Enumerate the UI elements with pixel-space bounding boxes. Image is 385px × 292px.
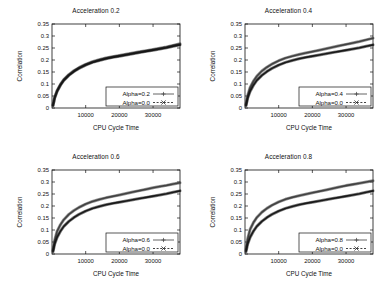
y-axis-title: Correlation <box>209 50 216 81</box>
y-tick-label: 0.35 <box>230 21 242 27</box>
legend-entry-label: Alpha=0.4 <box>315 90 343 97</box>
chart-panel-acceleration-06: Acceleration 0.6 00.050.10.150.20.250.30… <box>0 146 192 292</box>
y-tick-label: 0 <box>238 105 242 111</box>
x-axis-title: CPU Cycle Time <box>285 270 332 278</box>
y-tick-label: 0.2 <box>41 57 49 63</box>
y-tick-label: 0.25 <box>38 191 50 197</box>
y-axis-title: Correlation <box>16 50 23 81</box>
y-tick-label: 0.15 <box>38 215 50 221</box>
y-tick-label: 0.05 <box>230 239 242 245</box>
y-tick-label: 0.3 <box>233 179 242 185</box>
y-tick-label: 0.15 <box>38 69 50 75</box>
y-tick-label: 0.35 <box>38 167 50 173</box>
y-tick-label: 0.35 <box>38 21 50 27</box>
y-tick-label: 0.05 <box>38 93 50 99</box>
y-tick-label: 0 <box>238 251 242 257</box>
y-tick-label: 0.15 <box>230 215 242 221</box>
y-tick-label: 0 <box>46 251 50 257</box>
x-tick-label: 30000 <box>337 112 354 118</box>
y-tick-label: 0.3 <box>41 179 50 185</box>
y-tick-label: 0.15 <box>230 69 242 75</box>
y-tick-label: 0.1 <box>233 227 241 233</box>
y-tick-label: 0.2 <box>233 203 241 209</box>
x-tick-label: 10000 <box>270 112 287 118</box>
y-tick-label: 0.3 <box>41 33 50 39</box>
x-tick-label: 20000 <box>304 258 321 264</box>
legend-entry-label: Alpha=0.0 <box>122 99 150 106</box>
chart-panel-acceleration-02: Acceleration 0.2 00.050.10.150.20.250.30… <box>0 0 192 146</box>
plot-area-2: 00.050.10.150.20.250.30.3510000200003000… <box>0 146 192 292</box>
x-tick-label: 20000 <box>304 112 321 118</box>
x-tick-label: 10000 <box>77 258 94 264</box>
x-axis-title: CPU Cycle Time <box>285 124 332 132</box>
y-tick-label: 0.05 <box>230 93 242 99</box>
y-axis-title: Correlation <box>16 196 23 227</box>
plot-area-0: 00.050.10.150.20.250.30.3510000200003000… <box>0 0 192 146</box>
y-tick-label: 0.05 <box>38 239 50 245</box>
x-axis-title: CPU Cycle Time <box>93 270 140 278</box>
chart-panel-acceleration-08: Acceleration 0.8 00.050.10.150.20.250.30… <box>193 146 385 292</box>
figure-grid: Acceleration 0.2 00.050.10.150.20.250.30… <box>0 0 385 292</box>
x-tick-label: 10000 <box>77 112 94 118</box>
x-tick-label: 20000 <box>111 258 128 264</box>
y-tick-label: 0.25 <box>230 45 242 51</box>
chart-panel-acceleration-04: Acceleration 0.4 00.050.10.150.20.250.30… <box>193 0 385 146</box>
y-tick-label: 0.1 <box>233 81 241 87</box>
plot-area-3: 00.050.10.150.20.250.30.3510000200003000… <box>193 146 385 292</box>
y-tick-label: 0.3 <box>233 33 242 39</box>
y-tick-label: 0.2 <box>233 57 241 63</box>
legend-entry-label: Alpha=0.0 <box>122 245 150 252</box>
x-tick-label: 10000 <box>270 258 287 264</box>
y-tick-label: 0.1 <box>41 81 49 87</box>
y-axis-title: Correlation <box>209 196 216 227</box>
y-tick-label: 0.2 <box>41 203 49 209</box>
legend-entry-label: Alpha=0.8 <box>315 236 343 243</box>
y-tick-label: 0.25 <box>38 45 50 51</box>
plot-area-1: 00.050.10.150.20.250.30.3510000200003000… <box>193 0 385 146</box>
x-axis-title: CPU Cycle Time <box>93 124 140 132</box>
x-tick-label: 30000 <box>145 258 162 264</box>
legend-entry-label: Alpha=0.2 <box>122 90 150 97</box>
x-tick-label: 30000 <box>145 112 162 118</box>
y-tick-label: 0.1 <box>41 227 49 233</box>
legend-entry-label: Alpha=0.0 <box>315 99 343 106</box>
y-tick-label: 0.25 <box>230 191 242 197</box>
x-tick-label: 30000 <box>337 258 354 264</box>
legend-entry-label: Alpha=0.6 <box>122 236 150 243</box>
x-tick-label: 20000 <box>111 112 128 118</box>
y-tick-label: 0.35 <box>230 167 242 173</box>
y-tick-label: 0 <box>46 105 50 111</box>
legend-entry-label: Alpha=0.0 <box>315 245 343 252</box>
